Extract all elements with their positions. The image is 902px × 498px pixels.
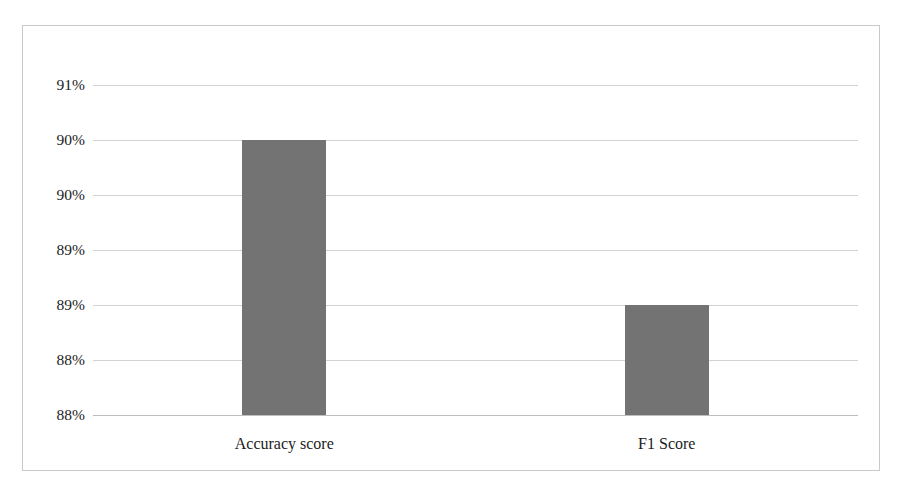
chart-figure: 91% 90% 90% 89% 89% 88% 88% Accuracy sco… — [0, 0, 902, 498]
x-tick-label-accuracy-score: Accuracy score — [235, 436, 334, 452]
x-tick-label-f1-score: F1 Score — [638, 436, 695, 452]
x-axis-tick-labels: Accuracy score F1 Score — [0, 0, 902, 498]
